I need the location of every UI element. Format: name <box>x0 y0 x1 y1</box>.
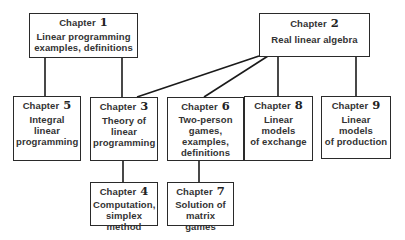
chapter-7-heading: Chapter7 <box>168 186 233 197</box>
chapter-2-title: Real linear algebra <box>260 34 369 45</box>
chapter-1-heading: Chapter1 <box>30 17 137 28</box>
chapter-4-title: Computation, simplex method <box>91 199 157 232</box>
chapter-number: 6 <box>222 99 230 113</box>
chapter-4-heading: Chapter4 <box>91 186 157 197</box>
chapter-9-heading: Chapter9 <box>322 100 390 111</box>
chapter-5-title: Integral linear programming <box>14 114 80 147</box>
chapter-2-box: Chapter2 Real linear algebra <box>259 13 370 57</box>
chapter-number: 5 <box>63 98 71 112</box>
chapter-label: Chapter <box>100 186 137 197</box>
chapter-label: Chapter <box>100 101 137 112</box>
chapter-1-box: Chapter1 Linear programming examples, de… <box>29 13 138 58</box>
chapter-6-box: Chapter6 Two-person games, examples, def… <box>167 97 244 161</box>
chapter-number: 1 <box>100 15 108 29</box>
chapter-8-heading: Chapter8 <box>245 100 312 111</box>
chapter-label: Chapter <box>290 18 327 29</box>
chapter-3-title: Theory of linear programming <box>91 115 157 148</box>
chapter-9-box: Chapter9 Linear models of production <box>321 96 391 159</box>
chapter-6-title: Two-person games, examples, definitions <box>168 114 243 158</box>
chapter-number: 8 <box>295 98 303 112</box>
edge-ch2-ch6 <box>204 56 268 97</box>
chapter-number: 3 <box>140 99 148 113</box>
chapter-6-heading: Chapter6 <box>168 101 243 112</box>
chapter-number: 4 <box>140 184 148 198</box>
chapter-label: Chapter <box>332 100 369 111</box>
chapter-1-title: Linear programming examples, definitions <box>30 31 137 53</box>
chapter-3-box: Chapter3 Theory of linear programming <box>90 97 158 161</box>
chapter-5-heading: Chapter5 <box>14 100 80 111</box>
chapter-label: Chapter <box>181 101 218 112</box>
chapter-2-heading: Chapter2 <box>260 18 369 29</box>
chapter-9-title: Linear models of production <box>322 114 390 147</box>
chapter-label: Chapter <box>59 17 96 28</box>
chapter-8-title: Linear models of exchange <box>245 114 312 147</box>
chapter-number: 9 <box>372 98 380 112</box>
chapter-number: 7 <box>217 184 225 198</box>
chapter-5-box: Chapter5 Integral linear programming <box>13 96 81 161</box>
chapter-dependency-diagram: Chapter1 Linear programming examples, de… <box>0 0 405 240</box>
chapter-7-title: Solution of matrix games <box>168 199 233 232</box>
chapter-8-box: Chapter8 Linear models of exchange <box>244 96 313 161</box>
chapter-3-heading: Chapter3 <box>91 101 157 112</box>
chapter-4-box: Chapter4 Computation, simplex method <box>90 182 158 226</box>
chapter-label: Chapter <box>254 100 291 111</box>
chapter-number: 2 <box>331 16 339 30</box>
edge-ch2-ch3 <box>137 56 259 97</box>
chapter-label: Chapter <box>23 100 60 111</box>
chapter-label: Chapter <box>176 186 213 197</box>
chapter-7-box: Chapter7 Solution of matrix games <box>167 182 234 226</box>
